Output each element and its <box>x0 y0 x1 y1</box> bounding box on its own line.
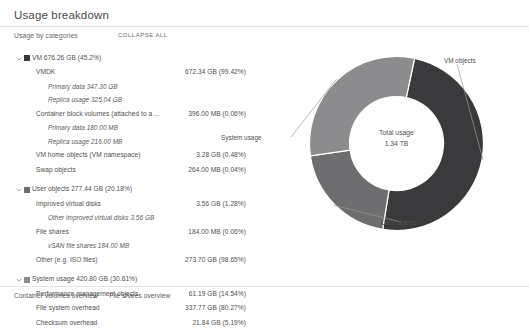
usage-row: Replica usage 325.04 GB <box>14 94 246 107</box>
usage-row-label: VM home objects (VM namespace) <box>36 151 140 158</box>
usage-row-value: 672.34 GB (99.42%) <box>185 68 246 75</box>
donut-center-label: Total usage <box>289 129 504 136</box>
usage-row-label: Primary data 347.30 GB <box>48 83 118 90</box>
usage-row-value: 61.19 GB (14.54%) <box>189 290 246 297</box>
usage-row-label: Replica usage 325.04 GB <box>48 96 122 103</box>
usage-row: vSAN file shares 184.00 MB <box>14 240 246 253</box>
callout-user-objects: User objects <box>381 219 417 226</box>
usage-row: File system overhead337.77 GB (80.27%) <box>14 302 246 317</box>
usage-row-label: Swap objects <box>36 166 76 173</box>
chevron-down-icon[interactable] <box>16 56 22 62</box>
footer-divider <box>0 286 529 287</box>
usage-row: Replica usage 216.00 MB <box>14 135 246 148</box>
callout-vm-objects: VM objects <box>444 57 476 64</box>
usage-row-value: 273.70 GB (98.65%) <box>185 256 246 263</box>
usage-row-label: Replica usage 216.00 MB <box>48 138 122 145</box>
legend-swatch <box>24 55 30 61</box>
usage-row: Checksum overhead21.84 GB (5.19%) <box>14 316 246 331</box>
footer-link[interactable]: File shares overview <box>109 292 170 299</box>
usage-by-categories-label: Usage by categories <box>14 32 78 39</box>
usage-row: Primary data 180.00 MB <box>14 122 246 135</box>
usage-row-value: 21.84 GB (5.19%) <box>192 319 246 326</box>
usage-row: File shares184.00 MB (0.06%) <box>14 225 246 240</box>
usage-row-label: vSAN file shares 184.00 MB <box>48 242 129 249</box>
chevron-down-icon[interactable] <box>16 277 22 283</box>
usage-row: Swap objects264.00 MB (0.04%) <box>14 163 246 178</box>
usage-row: Container block volumes (attached to a .… <box>14 107 246 122</box>
usage-row: Other improved virtual disks 3.56 GB <box>14 212 246 225</box>
footer-links: Container volumes overviewFile shares ov… <box>14 292 181 299</box>
page-title: Usage breakdown <box>14 9 109 21</box>
usage-row-label: File shares <box>36 228 69 235</box>
usage-row-label: Primary data 180.00 MB <box>48 124 118 131</box>
usage-row-value: 3.28 GB (0.48%) <box>196 151 246 158</box>
usage-group-row[interactable]: User objects 277.44 GB (20.18%) <box>14 183 246 198</box>
usage-row-label: User objects 277.44 GB (20.18%) <box>32 185 132 192</box>
usage-row-value: 3.56 GB (1.28%) <box>196 200 246 207</box>
usage-row: Other (e.g. ISO files)273.70 GB (98.65%) <box>14 253 246 268</box>
usage-row: VM home objects (VM namespace)3.28 GB (0… <box>14 148 246 163</box>
callout-system-usage: System usage <box>221 134 262 141</box>
donut-center-value: 1.34 TB <box>289 140 504 147</box>
usage-row-label: Other (e.g. ISO files) <box>36 256 98 263</box>
usage-row-value: 184.00 MB (0.06%) <box>188 228 246 235</box>
title-divider <box>0 26 529 27</box>
usage-row: Improved virtual disks3.56 GB (1.28%) <box>14 197 246 212</box>
usage-row-label: VMDK <box>36 68 55 75</box>
usage-donut-chart: Total usage 1.34 TB VM objects System us… <box>289 36 504 251</box>
usage-row: VMDK672.34 GB (99.42%) <box>14 66 246 81</box>
usage-row-label: VM 676.26 GB (45.2%) <box>32 54 101 61</box>
usage-row-label: Improved virtual disks <box>36 200 101 207</box>
donut-slice-user-objects[interactable] <box>310 150 389 229</box>
usage-tree: VM 676.26 GB (45.2%)VMDK672.34 GB (99.42… <box>14 51 246 331</box>
usage-row-value: 264.00 MB (0.04%) <box>188 166 246 173</box>
usage-group-row[interactable]: VM 676.26 GB (45.2%) <box>14 51 246 66</box>
legend-swatch <box>24 277 30 283</box>
usage-row-label: Other improved virtual disks 3.56 GB <box>48 214 154 221</box>
usage-row-label: Container block volumes (attached to a .… <box>36 110 160 117</box>
usage-row-value: 396.00 MB (0.06%) <box>188 110 246 117</box>
collapse-all-button[interactable]: COLLAPSE ALL <box>118 32 168 38</box>
usage-row-label: System usage 420.80 GB (30.61%) <box>32 275 137 282</box>
chevron-down-icon[interactable] <box>16 187 22 193</box>
usage-row: Primary data 347.30 GB <box>14 80 246 93</box>
usage-row-label: File system overhead <box>36 304 100 311</box>
footer-link[interactable]: Container volumes overview <box>14 292 98 299</box>
usage-row-value: 337.77 GB (80.27%) <box>185 304 246 311</box>
categories-header: Usage by categories COLLAPSE ALL <box>14 32 246 46</box>
usage-row-label: Checksum overhead <box>36 319 97 326</box>
legend-swatch <box>24 187 30 193</box>
